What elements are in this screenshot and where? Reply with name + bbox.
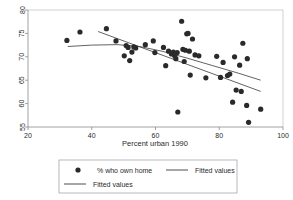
data-point (258, 107, 263, 112)
data-point (173, 56, 178, 61)
legend-label-fitted-1: Fitted values (195, 167, 235, 174)
x-tick-label: 80 (215, 132, 223, 139)
data-point (230, 100, 235, 105)
y-axis-ticks: 556065707580 (19, 6, 29, 131)
data-point (190, 36, 195, 41)
data-point (214, 54, 219, 59)
fitted-lines (68, 32, 261, 92)
data-point (175, 109, 180, 114)
data-point (122, 53, 127, 58)
y-tick-label: 60 (19, 100, 26, 108)
data-point (152, 50, 157, 55)
x-axis-title: Percent urban 1990 (122, 139, 188, 148)
data-point (133, 45, 138, 50)
data-point (163, 63, 168, 68)
legend-label-own-home: % who own home (97, 167, 152, 174)
data-point (77, 29, 82, 34)
data-point (129, 50, 134, 55)
x-axis-ticks: 20406080100 (24, 127, 289, 139)
data-point (227, 72, 232, 77)
y-tick-label: 65 (19, 76, 26, 84)
data-point (245, 56, 250, 61)
data-point (175, 50, 180, 55)
data-point (234, 87, 239, 92)
data-point (220, 60, 225, 65)
data-point (246, 120, 251, 125)
fitted-line-1 (98, 32, 261, 92)
data-point (125, 45, 130, 50)
data-point (196, 53, 201, 58)
data-point (113, 38, 118, 43)
legend-box (59, 160, 237, 193)
y-tick-label: 70 (19, 53, 26, 61)
data-point (203, 75, 208, 80)
plot-frame (28, 10, 283, 127)
data-point (161, 45, 166, 50)
x-tick-label: 60 (152, 132, 160, 139)
data-point (151, 38, 156, 43)
chart-legend: % who own home Fitted values Fitted valu… (59, 160, 237, 193)
data-point (185, 31, 190, 36)
data-point (237, 63, 242, 68)
data-point (240, 41, 245, 46)
scatter-plot: 556065707580 20406080100 Percent urban 1… (0, 0, 293, 200)
chart-figure: 556065707580 20406080100 Percent urban 1… (0, 0, 293, 200)
data-point (64, 38, 69, 43)
data-point (232, 54, 237, 59)
data-point (182, 59, 187, 64)
data-point (143, 42, 148, 47)
x-tick-label: 100 (277, 132, 289, 139)
y-tick-label: 55 (19, 123, 26, 131)
legend-label-fitted-2: Fitted values (93, 181, 133, 188)
data-point (244, 103, 249, 108)
y-tick-label: 80 (19, 6, 26, 14)
data-point (188, 72, 193, 77)
data-point (127, 58, 132, 63)
legend-marker-own-home (75, 167, 80, 172)
y-tick-label: 75 (19, 29, 26, 37)
data-point (104, 26, 109, 31)
x-tick-label: 40 (88, 132, 96, 139)
x-tick-label: 20 (24, 132, 32, 139)
data-point (187, 49, 192, 54)
data-point (179, 19, 184, 24)
data-point (218, 75, 223, 80)
data-point (239, 89, 244, 94)
